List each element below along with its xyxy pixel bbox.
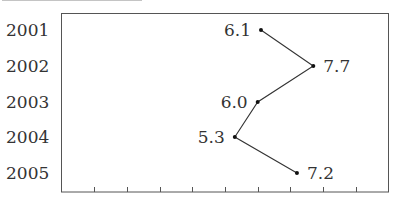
x-axis-ticks <box>95 187 357 192</box>
data-label: 7.7 <box>323 56 350 76</box>
data-label: 6.0 <box>221 92 248 112</box>
y-axis-labels: 20012002200320042005 <box>6 20 49 183</box>
y-axis-label: 2005 <box>6 163 49 183</box>
data-point <box>311 64 315 68</box>
data-label: 6.1 <box>224 20 251 40</box>
y-axis-label: 2001 <box>6 20 49 40</box>
data-point <box>259 28 263 32</box>
line-chart: 20012002200320042005 6.17.76.05.37.2 <box>0 0 398 202</box>
data-label: 7.2 <box>307 163 334 183</box>
y-axis-label: 2004 <box>6 127 49 147</box>
y-axis-label: 2002 <box>6 56 49 76</box>
y-axis-label: 2003 <box>6 92 49 112</box>
data-point <box>295 171 299 175</box>
data-point <box>233 135 237 139</box>
data-label: 5.3 <box>198 127 225 147</box>
data-labels: 6.17.76.05.37.2 <box>198 20 351 183</box>
data-point <box>256 100 260 104</box>
